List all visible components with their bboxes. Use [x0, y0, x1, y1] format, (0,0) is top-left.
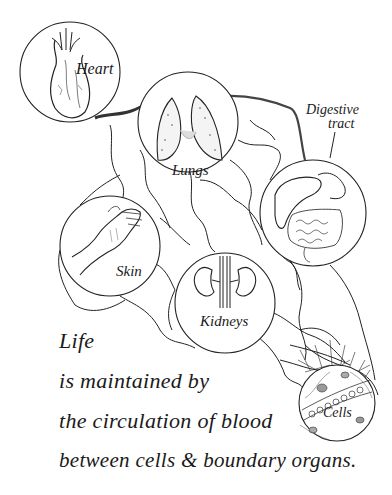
lungs-illustration — [138, 72, 238, 172]
caption-line-3: the circulation of blood — [59, 410, 273, 432]
lungs-label: Lungs — [172, 163, 209, 178]
caption-line-4: between cells & boundary organs. — [59, 450, 357, 471]
skin-label: Skin — [116, 264, 142, 279]
cells-label: Cells — [323, 406, 352, 420]
skin-illustration — [60, 196, 160, 296]
kidneys-illustration — [175, 253, 275, 353]
caption-line-1: Life — [59, 330, 94, 352]
digestive-label-line2: tract — [328, 117, 354, 131]
caption-line-2: is maintained by — [59, 370, 209, 392]
digestive-label-line1: Digestive — [306, 103, 359, 117]
heart-label: Heart — [76, 61, 113, 77]
digestive-tract-illustration — [260, 132, 366, 266]
kidneys-label: Kidneys — [200, 314, 248, 329]
cells-illustration — [299, 365, 375, 441]
